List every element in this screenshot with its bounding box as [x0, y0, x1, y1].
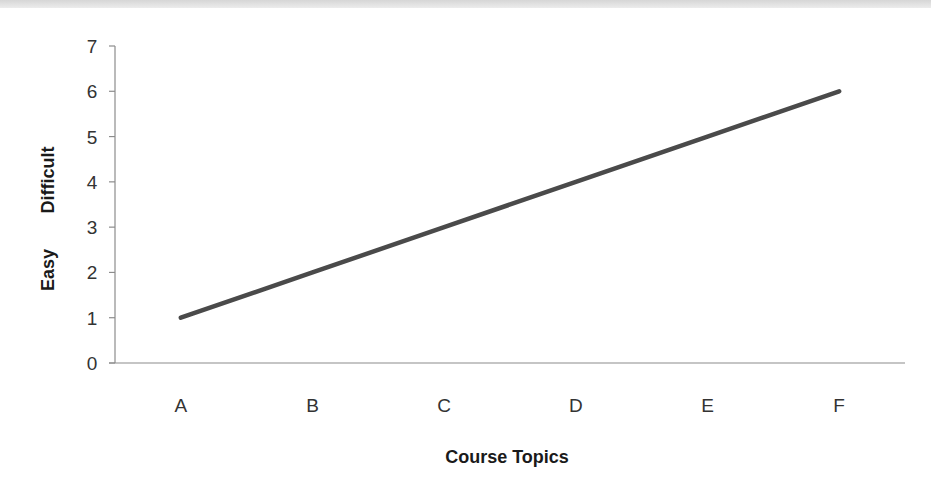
y-axis-title-easy: Easy: [38, 249, 58, 291]
y-axis-title-difficult: Difficult: [38, 147, 58, 214]
y-tick-label: 4: [87, 172, 98, 193]
y-axis: 01234567: [87, 36, 115, 374]
y-tick-label: 7: [87, 36, 98, 57]
x-axis-title: Course Topics: [445, 447, 569, 467]
y-tick-label: 0: [87, 353, 98, 374]
data-series-line: [181, 91, 839, 317]
x-tick-label: E: [701, 395, 714, 416]
x-tick-label: B: [306, 395, 319, 416]
x-tick-label: D: [569, 395, 583, 416]
y-tick-label: 3: [87, 217, 98, 238]
y-tick-label: 1: [87, 308, 98, 329]
line-chart: 01234567 ABCDEF Easy Difficult Course To…: [0, 0, 931, 495]
y-tick-label: 6: [87, 81, 98, 102]
x-tick-label: F: [833, 395, 845, 416]
plot-area: [181, 91, 839, 317]
x-tick-label: A: [174, 395, 187, 416]
y-tick-label: 5: [87, 127, 98, 148]
x-axis: ABCDEF: [109, 363, 905, 416]
y-tick-label: 2: [87, 262, 98, 283]
x-tick-label: C: [437, 395, 451, 416]
